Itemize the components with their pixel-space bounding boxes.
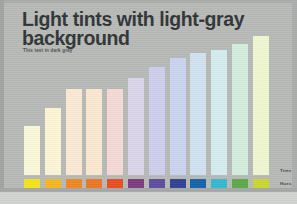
legend-label-tints: Tints [280, 168, 291, 173]
tint-bar [66, 89, 82, 175]
tint-bar [170, 58, 186, 175]
legend-label-hues: Hues [280, 181, 292, 186]
slide-content-area: Light tints with light-gray background T… [4, 3, 292, 188]
bar-column [253, 36, 269, 175]
bar-column [45, 36, 61, 175]
tint-bar [24, 126, 40, 175]
slide-canvas: Light tints with light-gray background T… [0, 0, 297, 204]
tint-bar [149, 67, 165, 175]
slide-frame-left-edge [0, 0, 4, 204]
tint-bar [253, 36, 269, 175]
tint-bar [190, 53, 206, 175]
slide-frame-right-edge [292, 0, 297, 204]
tint-bar [45, 108, 61, 175]
slide-frame-bottom-edge [0, 192, 297, 204]
bar-column [170, 36, 186, 175]
tint-bar [211, 50, 227, 175]
bar-column [149, 36, 165, 175]
tint-bar [86, 89, 102, 175]
bar-column [190, 36, 206, 175]
bar-column [24, 36, 40, 175]
slide-frame-top-edge [0, 0, 297, 3]
bar-column [86, 36, 102, 175]
bar-column [107, 36, 123, 175]
bar-column [232, 36, 248, 175]
bar-column [128, 36, 144, 175]
tint-bar [232, 44, 248, 175]
bar-chart-plot-area [24, 36, 276, 175]
tint-bar [107, 89, 123, 175]
bar-column [66, 36, 82, 175]
bar-column [211, 36, 227, 175]
tint-bar [128, 78, 144, 175]
